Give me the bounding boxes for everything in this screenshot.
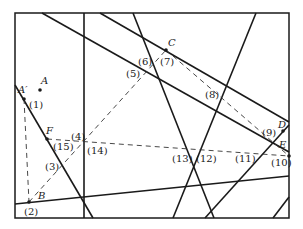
line-line-9-11: [205, 125, 289, 218]
point-dot: [45, 137, 49, 141]
point-label: A: [40, 75, 48, 86]
point-dot: [27, 200, 31, 204]
point-label: C: [168, 37, 176, 48]
point-label: A′: [17, 84, 28, 95]
segment-label-3: (3): [45, 161, 59, 172]
segment-label-10: (10): [271, 157, 292, 168]
segment-label-5: (5): [126, 68, 140, 79]
segment-label-6: (6): [138, 56, 152, 67]
point-label: E: [278, 139, 287, 150]
dashed-A-prime-to-B: [24, 99, 29, 202]
segment-label-2: (2): [24, 206, 38, 217]
line-corner-br: [273, 197, 289, 218]
point-label: F: [45, 125, 54, 136]
dashed-C-to-E: [166, 50, 289, 156]
segment-label-13: (13): [172, 153, 193, 164]
point-label: B: [37, 190, 45, 201]
segment-label-12: (12): [196, 153, 217, 164]
point-label: D: [277, 119, 286, 130]
segment-labels: (1)(2)(3)(4)(5)(6)(7)(8)(9)(10)(11)(12)(…: [24, 56, 292, 217]
line-near-horizontal: [15, 176, 289, 204]
solid-lines: [15, 13, 289, 218]
segment-label-15: (15): [53, 141, 74, 152]
segment-label-7: (7): [160, 56, 174, 67]
point-dot: [22, 97, 26, 101]
segment-label-14: (14): [87, 145, 108, 156]
point-dot: [164, 48, 168, 52]
segment-label-9: (9): [262, 127, 276, 138]
segment-label-8: (8): [205, 89, 219, 100]
reflection-diagram: AA′BCDEF (1)(2)(3)(4)(5)(6)(7)(8)(9)(10)…: [0, 0, 303, 229]
segment-label-1: (1): [29, 99, 43, 110]
point-dot: [38, 88, 42, 92]
points: AA′BCDEF: [17, 37, 291, 204]
segment-label-11: (11): [235, 153, 256, 164]
